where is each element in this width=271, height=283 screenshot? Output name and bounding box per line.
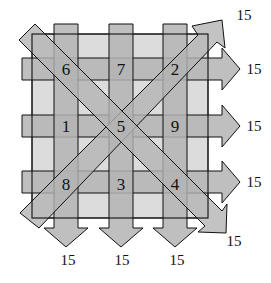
column-sum-1: 15	[61, 252, 76, 268]
cell-r1c0: 1	[62, 117, 71, 136]
main-diagonal-sum: 15	[227, 233, 242, 249]
cell-r2c1: 3	[117, 175, 126, 194]
cell-r0c1: 7	[117, 60, 126, 79]
row-sum-2: 15	[247, 118, 262, 134]
cell-r2c2: 4	[171, 175, 180, 194]
column-sum-3: 15	[170, 252, 185, 268]
anti-diagonal-sum: 15	[237, 7, 252, 23]
magic-square-diagram: 6 7 2 1 5 9 8 3 4 15 15 15 15 15 15 15 1…	[0, 0, 271, 283]
cell-r1c1: 5	[117, 117, 126, 136]
cell-r2c0: 8	[62, 175, 71, 194]
column-sum-2: 15	[115, 252, 130, 268]
cell-r0c0: 6	[62, 60, 71, 79]
cell-r1c2: 9	[171, 117, 180, 136]
row-sum-3: 15	[247, 174, 262, 190]
row-sum-1: 15	[247, 61, 262, 77]
magic-square-svg: 6 7 2 1 5 9 8 3 4 15 15 15 15 15 15 15 1…	[0, 0, 271, 283]
cell-r0c2: 2	[171, 60, 180, 79]
